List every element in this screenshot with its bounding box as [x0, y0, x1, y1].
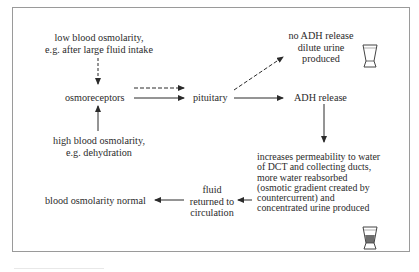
- node-low-osmolarity: low blood osmolarity, e.g. after large f…: [36, 32, 162, 55]
- node-blood-osmolarity-normal: blood osmolarity normal: [45, 195, 146, 207]
- high-osmolarity-line1: high blood osmolarity,: [36, 135, 162, 147]
- dark-filled-beaker-icon: [362, 226, 378, 250]
- permeability-line6: concentrated urine produced: [257, 203, 380, 213]
- node-osmoreceptors: osmoreceptors: [65, 92, 124, 104]
- cropped-caption: [14, 268, 104, 272]
- node-high-osmolarity: high blood osmolarity, e.g. dehydration: [36, 135, 162, 158]
- node-adh-release: ADH release: [294, 92, 347, 104]
- low-osmolarity-line1: low blood osmolarity,: [36, 32, 162, 44]
- low-osmolarity-line2: e.g. after large fluid intake: [36, 44, 162, 56]
- node-fluid-returned: fluid returned to circulation: [182, 184, 242, 219]
- node-no-adh-release: no ADH release dilute urine produced: [283, 30, 359, 65]
- high-osmolarity-line2: e.g. dehydration: [36, 147, 162, 159]
- no-adh-line3: produced: [283, 53, 359, 65]
- arrow-pituitary-to-no-adh: [234, 57, 283, 90]
- node-permeability: increases permeability to water of DCT a…: [257, 152, 380, 214]
- no-adh-line2: dilute urine: [283, 42, 359, 54]
- no-adh-line1: no ADH release: [283, 30, 359, 42]
- empty-beaker-icon: [362, 44, 378, 68]
- node-pituitary: pituitary: [193, 92, 228, 104]
- fluid-line3: circulation: [182, 207, 242, 219]
- fluid-line2: returned to: [182, 196, 242, 208]
- fluid-line1: fluid: [182, 184, 242, 196]
